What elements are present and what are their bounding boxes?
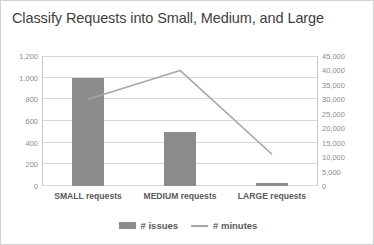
legend-item-issues: # issues [119,220,179,231]
y-tick-right: 0 [322,182,326,191]
y-tick-right: 35,000 [322,80,345,89]
legend-label-minutes: # minutes [213,220,257,231]
y-axis-right: 05,00010,00015,00020,00025,00030,00035,0… [322,56,372,186]
x-axis-label: SMALL requests [42,191,134,205]
line-path [88,70,272,154]
y-tick-left: 600 [25,117,38,126]
chart-legend: # issues # minutes [1,220,374,231]
y-tick-right: 15,000 [322,138,345,147]
y-tick-right: 20,000 [322,124,345,133]
y-tick-left: 1,000 [19,73,38,82]
bar-swatch-icon [119,222,136,229]
y-tick-right: 45,000 [322,52,345,61]
y-tick-right: 5,000 [322,167,341,176]
chart-container: Classify Requests into Small, Medium, an… [0,0,374,245]
y-tick-left: 0 [34,182,38,191]
x-axis-label: LARGE requests [226,191,318,205]
x-axis-labels: SMALL requestsMEDIUM requestsLARGE reque… [42,191,318,205]
chart-title: Classify Requests into Small, Medium, an… [12,10,324,26]
y-tick-left: 1,200 [19,52,38,61]
x-axis-label: MEDIUM requests [134,191,226,205]
y-axis-left: 02004006008001,0001,200 [1,56,38,186]
legend-item-minutes: # minutes [191,220,257,231]
y-tick-left: 400 [25,138,38,147]
y-tick-left: 200 [25,160,38,169]
y-tick-right: 30,000 [322,95,345,104]
plot-area [42,56,318,186]
y-tick-right: 40,000 [322,66,345,75]
y-tick-right: 25,000 [322,109,345,118]
line-swatch-icon [191,225,208,227]
y-tick-left: 800 [25,95,38,104]
y-tick-right: 10,000 [322,153,345,162]
line-series-minutes [42,56,318,186]
legend-label-issues: # issues [141,220,179,231]
